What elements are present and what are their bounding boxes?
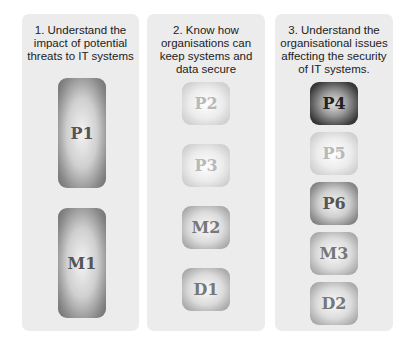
learning-aim-3-panel: 3. Understand the organisational issues … <box>275 14 393 331</box>
criterion-p5: P5 <box>310 132 358 175</box>
criterion-m2: M2 <box>182 206 230 249</box>
criterion-m3: M3 <box>310 232 358 275</box>
learning-aim-2-panel: 2. Know how organisations can keep syste… <box>147 14 265 331</box>
criterion-d1: D1 <box>182 268 230 311</box>
criterion-p6: P6 <box>310 182 358 225</box>
criterion-p1: P1 <box>58 78 106 188</box>
criterion-d2: D2 <box>310 282 358 325</box>
learning-aim-2-title: 2. Know how organisations can keep syste… <box>147 24 265 76</box>
learning-aim-3-title: 3. Understand the organisational issues … <box>275 24 393 76</box>
criterion-p3: P3 <box>182 144 230 187</box>
learning-aim-1-title: 1. Understand the impact of potential th… <box>22 24 139 63</box>
learning-aim-1-panel: 1. Understand the impact of potential th… <box>22 14 139 331</box>
criterion-p4: P4 <box>310 82 358 125</box>
criterion-m1: M1 <box>58 208 106 318</box>
criterion-p2: P2 <box>182 82 230 125</box>
